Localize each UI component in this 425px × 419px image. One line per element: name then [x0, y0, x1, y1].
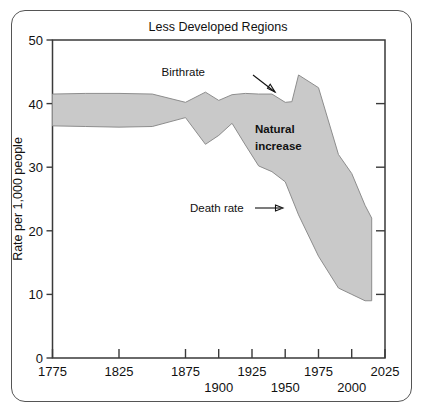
y-tick-label-40: 40	[29, 97, 43, 112]
y-tick-label-50: 50	[29, 33, 43, 48]
figure-container: Less Developed Regions Rate per 1,000 pe…	[0, 0, 425, 419]
natural-increase-band	[53, 75, 372, 301]
x-tick-label-1875: 1875	[171, 364, 200, 379]
y-axis-label: Rate per 1,000 people	[11, 137, 25, 261]
x-tick-label-2025: 2025	[371, 364, 400, 379]
x-tick-label-1950: 1950	[271, 380, 300, 395]
y-axis-ticks	[47, 40, 53, 358]
x-tick-label-1925: 1925	[238, 364, 267, 379]
death-rate-arrow	[255, 205, 283, 211]
x-tick-label-1775: 1775	[38, 364, 67, 379]
x-tick-label-1825: 1825	[105, 364, 134, 379]
death-rate-annotation-label: Death rate	[190, 202, 244, 214]
x-tick-label-1975: 1975	[304, 364, 333, 379]
y-tick-label-20: 20	[29, 224, 43, 239]
birthrate-arrow	[253, 75, 275, 92]
y-tick-label-10: 10	[29, 287, 43, 302]
x-tick-label-1900: 1900	[204, 380, 233, 395]
chart-title: Less Developed Regions	[149, 20, 288, 34]
chart-plot: Less Developed Regions Rate per 1,000 pe…	[0, 0, 425, 419]
natural-increase-annotation-line2: increase	[255, 140, 302, 152]
x-axis-ticks	[53, 349, 386, 358]
x-tick-label-2000: 2000	[337, 380, 366, 395]
y-axis-ticks-right	[376, 104, 385, 295]
birthrate-annotation-label: Birthrate	[162, 66, 205, 78]
natural-increase-annotation-line1: Natural	[255, 123, 295, 135]
y-tick-label-30: 30	[29, 160, 43, 175]
